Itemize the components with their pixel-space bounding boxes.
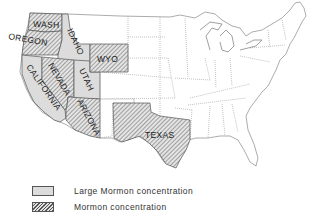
us-map: WASH OREGON IDAHO WYO CALIFORNIA NEVADA … [0, 0, 312, 180]
legend-item-large: Large Mormon concentration [32, 183, 193, 199]
label-wyoming: WYO [97, 54, 118, 64]
legend-item-concentration: Mormon concentration [32, 199, 193, 215]
hatched-swatch-icon [32, 202, 54, 212]
legend-label-concentration: Mormon concentration [74, 202, 167, 212]
legend-label-large: Large Mormon concentration [74, 186, 193, 196]
label-texas: TEXAS [145, 130, 174, 140]
label-washington: WASH [33, 19, 60, 30]
legend: Large Mormon concentration Mormon concen… [32, 183, 193, 215]
solid-swatch-icon [32, 186, 54, 196]
